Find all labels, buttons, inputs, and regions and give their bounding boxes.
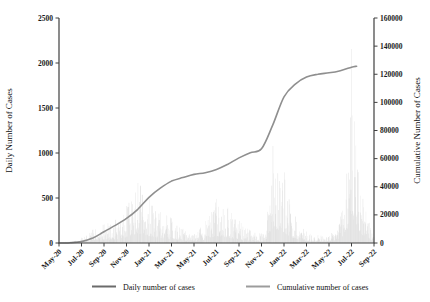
svg-text:Jul-20: Jul-20 (65, 247, 86, 268)
daily-bars-series (59, 49, 374, 243)
svg-text:Jan-22: Jan-22 (267, 247, 289, 269)
legend: Daily number of cases Cumulative number … (92, 283, 368, 292)
legend-label-daily: Daily number of cases (123, 283, 195, 292)
svg-text:Jul-22: Jul-22 (335, 247, 356, 268)
svg-text:Nov-21: Nov-21 (243, 247, 266, 270)
svg-text:1000: 1000 (38, 149, 53, 158)
svg-text:1500: 1500 (38, 104, 53, 113)
svg-text:2000: 2000 (38, 59, 53, 68)
svg-text:Nov-20: Nov-20 (108, 247, 131, 270)
svg-text:20000: 20000 (380, 210, 399, 219)
legend-item-cumulative: Cumulative number of cases (246, 283, 368, 292)
svg-text:2500: 2500 (38, 14, 53, 23)
cumulative-line-series (59, 66, 357, 243)
svg-text:Jul-21: Jul-21 (200, 247, 221, 268)
svg-text:Sep-21: Sep-21 (222, 247, 244, 269)
svg-text:80000: 80000 (380, 126, 399, 135)
left-axis-title: Daily Number of Cases (4, 88, 14, 173)
svg-text:May-22: May-22 (310, 247, 334, 271)
svg-text:160000: 160000 (380, 14, 403, 23)
chart-figure: 0500100015002000250002000040000600008000… (0, 0, 430, 302)
daily-cumulative-cases-chart: 0500100015002000250002000040000600008000… (0, 0, 430, 302)
svg-text:May-20: May-20 (40, 247, 64, 271)
svg-text:Sep-22: Sep-22 (357, 247, 379, 269)
svg-text:Sep-20: Sep-20 (87, 247, 109, 269)
svg-text:May-21: May-21 (175, 247, 199, 271)
svg-text:140000: 140000 (380, 42, 403, 51)
svg-text:120000: 120000 (380, 70, 403, 79)
svg-text:Mar-22: Mar-22 (288, 247, 311, 270)
legend-item-daily: Daily number of cases (92, 283, 195, 292)
svg-text:0: 0 (380, 239, 384, 248)
svg-text:Jan-21: Jan-21 (132, 247, 154, 269)
svg-text:100000: 100000 (380, 98, 403, 107)
svg-text:0: 0 (49, 239, 53, 248)
svg-text:60000: 60000 (380, 154, 399, 163)
svg-text:Mar-21: Mar-21 (153, 247, 176, 270)
svg-text:40000: 40000 (380, 182, 399, 191)
svg-text:500: 500 (42, 194, 54, 203)
legend-label-cumulative: Cumulative number of cases (277, 283, 368, 292)
right-axis-title: Cumulative Number of Cases (412, 77, 422, 184)
